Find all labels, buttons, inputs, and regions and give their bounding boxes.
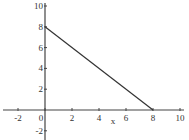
x-tick-label: 0	[39, 113, 44, 123]
x-tick-label: 2	[70, 113, 75, 123]
y-tick-label: -2	[36, 126, 44, 136]
data-line	[45, 27, 153, 110]
x-tick-label: 6	[124, 113, 129, 123]
line-chart: -20246810-2246810x	[0, 0, 189, 140]
y-tick-label: 2	[39, 84, 44, 94]
y-tick-label: 8	[39, 22, 44, 32]
y-tick-label: 4	[39, 63, 44, 73]
y-tick-label: 6	[39, 43, 44, 53]
y-tick-label: 10	[34, 1, 44, 11]
x-tick-label: -2	[14, 113, 22, 123]
x-tick-label: 10	[176, 113, 186, 123]
x-axis-label: x	[111, 116, 116, 126]
x-tick-label: 8	[151, 113, 156, 123]
x-tick-label: 4	[97, 113, 102, 123]
